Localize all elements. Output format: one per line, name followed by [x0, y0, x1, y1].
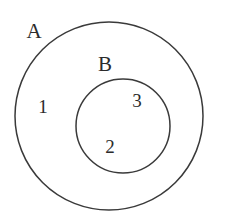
region-label-3: 3: [132, 90, 142, 111]
set-label-b: B: [98, 52, 112, 76]
venn-diagram-canvas: A B 1 2 3: [0, 0, 225, 224]
region-label-2: 2: [105, 136, 115, 157]
region-label-1: 1: [38, 96, 48, 117]
venn-diagram-figure: A B 1 2 3: [0, 0, 225, 224]
set-circle-b[interactable]: [76, 79, 170, 173]
set-label-a: A: [26, 19, 42, 43]
